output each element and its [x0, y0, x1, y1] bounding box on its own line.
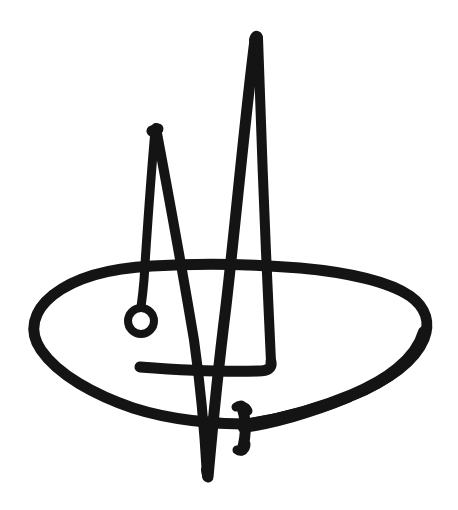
t-terminal-top-flare — [236, 406, 248, 411]
tall-peak-apex — [254, 36, 258, 40]
bottom-vertex-point — [205, 470, 209, 476]
ink-sketch-artwork: Hand-drawn ink sketch Monochrome freehan… — [0, 0, 458, 510]
left-peak-apex — [152, 129, 158, 131]
drawing-canvas: Hand-drawn ink sketch Monochrome freehan… — [0, 0, 458, 510]
